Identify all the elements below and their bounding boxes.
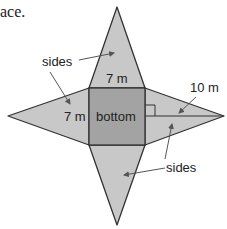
- label-left-base: 7 m: [64, 109, 86, 124]
- bottom-side-face: [89, 145, 145, 225]
- label-bottom-face: bottom: [96, 109, 136, 124]
- label-slant-height: 10 m: [190, 80, 219, 95]
- label-sides-bottom: sides: [166, 160, 197, 175]
- label-top-base: 7 m: [106, 71, 128, 86]
- label-sides-top: sides: [42, 54, 73, 69]
- pyramid-net-diagram: sides 7 m 7 m bottom 10 m sides: [0, 0, 227, 229]
